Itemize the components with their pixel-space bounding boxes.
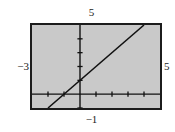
plot-area[interactable] bbox=[32, 25, 160, 108]
plot-svg bbox=[32, 25, 160, 108]
y-min-label: −1 bbox=[0, 113, 175, 125]
x-max-label: 5 bbox=[164, 60, 175, 72]
calculator-plot-frame[interactable] bbox=[30, 23, 162, 110]
screenshot-canvas: 5 −1 −3 5 bbox=[0, 0, 175, 132]
y-max-label: 5 bbox=[0, 6, 175, 18]
x-min-label: −3 bbox=[3, 60, 29, 72]
